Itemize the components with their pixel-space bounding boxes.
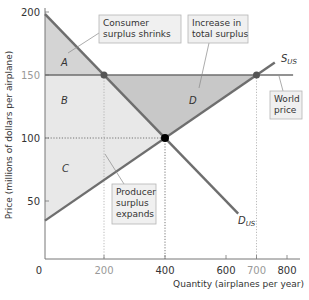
y-tick-label: 100 [21,133,40,144]
x-axis-title: Quantity (airplanes per year) [173,279,304,289]
y-tick-label: 150 [21,70,40,81]
callout-consumer: Consumersurplus shrinks [68,15,181,53]
point-qd-world-price [101,72,108,79]
x-tick-label: 700 [247,265,266,276]
callout-leader [279,76,283,91]
demand-label: DUS [238,215,256,228]
callout-text: total surplus [192,29,248,39]
point-qs-world-price [253,72,260,79]
export-surplus-chart: 501001502000200400600700800 ABCD DUSSUS … [0,0,309,300]
area-label-C: C [62,163,69,174]
callout-text: expands [116,209,154,219]
callout-world: Worldprice [270,76,302,119]
callout-text: Increase in [192,18,241,28]
y-axis-title: Price (millions of dollars per airplane) [4,51,14,219]
callout-text: World [274,94,300,104]
callout-text: Producer [116,187,156,197]
callout-text: price [274,105,297,115]
supply-label: SUS [281,53,297,66]
y-tick-label: 50 [27,196,40,207]
area-label-B: B [61,95,68,106]
callout-text: surplus [116,198,149,208]
x-tick-label: 400 [155,265,174,276]
x-tick-label: 800 [277,265,296,276]
x-tick-label: 200 [94,265,113,276]
point-equilibrium [161,134,169,142]
x-tick-label: 0 [36,265,42,276]
area-label-D: D [189,95,197,106]
callout-text: surplus shrinks [103,29,171,39]
x-tick-label: 600 [216,265,235,276]
y-tick-label: 200 [21,7,40,18]
callout-text: Consumer [103,18,149,28]
area-label-A: A [60,57,68,68]
